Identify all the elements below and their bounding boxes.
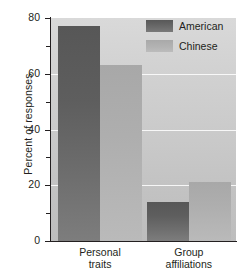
x-axis-label-line: affiliations [141,258,237,270]
legend-label: Chinese [179,40,218,52]
legend-item-chinese: Chinese [146,38,223,54]
x-axis-label-1: Groupaffiliations [141,246,237,270]
y-tick-label: 80 [0,11,40,23]
y-tick-major [45,130,51,131]
y-tick-minor [46,213,51,214]
bar-chinese-0 [100,65,142,241]
chart-legend: AmericanChinese [146,18,223,58]
y-tick-label: 60 [0,67,40,79]
y-tick-minor [46,102,51,103]
y-tick-minor [46,46,51,47]
x-axis-label-line: traits [52,258,148,270]
y-tick-label: 0 [0,234,40,246]
x-axis-line [50,241,237,242]
y-tick-major [45,185,51,186]
y-tick-major [45,241,51,242]
y-tick-major [45,18,51,19]
x-axis-label-0: Personaltraits [52,246,148,270]
y-tick-major [45,74,51,75]
legend-label: American [179,20,223,32]
legend-swatch-american [146,20,173,32]
x-axis-label-line: Personal [79,246,120,258]
y-tick-label: 40 [0,123,40,135]
bar-chinese-1 [189,182,231,241]
y-tick-minor [46,157,51,158]
y-tick-label: 20 [0,178,40,190]
bar-american-1 [147,202,189,241]
bar-american-0 [58,26,100,241]
bar-chart: Percent of responses 020406080 Personalt… [0,0,247,279]
x-axis-label-line: Group [174,246,203,258]
legend-item-american: American [146,18,223,34]
legend-swatch-chinese [146,40,173,52]
